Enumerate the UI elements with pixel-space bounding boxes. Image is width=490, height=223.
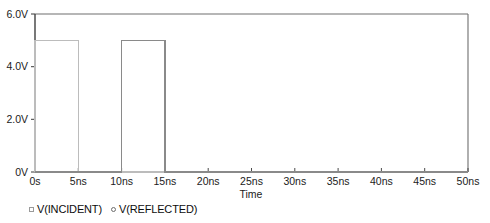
x-tick-label-6: 30ns — [283, 175, 306, 187]
legend-item-reflected[interactable]: V(REFLECTED) — [111, 204, 197, 215]
y-tick-label-2: 4.0V — [6, 60, 28, 72]
legend-square-marker-icon — [29, 207, 34, 212]
plot-canvas: 0V2.0V4.0V6.0V 0s5ns10ns15ns20ns25ns30ns… — [0, 0, 490, 223]
waveform-chart: 0V2.0V4.0V6.0V 0s5ns10ns15ns20ns25ns30ns… — [0, 0, 490, 223]
legend-label-reflected: V(REFLECTED) — [119, 204, 197, 215]
data-series-group — [35, 40, 468, 172]
chart-legend: V(INCIDENT) V(REFLECTED) — [0, 200, 490, 218]
x-tick-label-5: 25ns — [240, 175, 263, 187]
x-axis-title: Time — [240, 188, 263, 200]
x-tick-label-0: 0s — [29, 175, 40, 187]
x-tick-label-10: 50ns — [457, 175, 480, 187]
x-tick-label-7: 35ns — [327, 175, 350, 187]
series-trace-vincident — [35, 40, 468, 172]
y-axis-tick-labels: 0V2.0V4.0V6.0V — [6, 8, 28, 178]
y-tick-label-0: 0V — [15, 166, 28, 178]
x-tick-label-4: 20ns — [197, 175, 220, 187]
legend-label-incident: V(INCIDENT) — [37, 204, 102, 215]
y-tick-label-3: 6.0V — [6, 8, 28, 20]
x-axis-tick-labels: 0s5ns10ns15ns20ns25ns30ns35ns40ns45ns50n… — [29, 175, 479, 187]
x-tick-label-2: 10ns — [110, 175, 133, 187]
series-trace-vreflected — [35, 40, 468, 172]
x-tick-label-8: 40ns — [370, 175, 393, 187]
x-tick-label-9: 45ns — [413, 175, 436, 187]
legend-item-incident[interactable]: V(INCIDENT) — [29, 204, 102, 215]
legend-circle-marker-icon — [111, 207, 116, 212]
y-tick-label-1: 2.0V — [6, 113, 28, 125]
x-tick-label-3: 15ns — [154, 175, 177, 187]
x-tick-label-1: 5ns — [70, 175, 87, 187]
